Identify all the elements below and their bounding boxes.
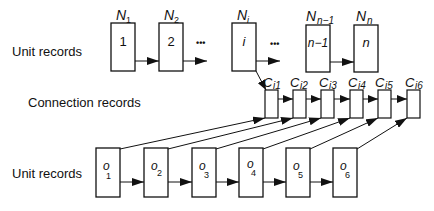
bottom-unit-o4: o 4 — [239, 148, 263, 197]
top-unit-ni: N i i — [232, 7, 256, 71]
svg-text:N: N — [306, 8, 317, 24]
svg-text:i3: i3 — [329, 80, 337, 91]
svg-text:i4: i4 — [358, 80, 366, 91]
top-unit-nn: N n n — [354, 8, 378, 72]
svg-text:i1: i1 — [273, 80, 281, 91]
svg-text:C: C — [375, 75, 385, 90]
svg-text:i2: i2 — [300, 80, 308, 91]
connection-ci1: C i1 — [263, 75, 281, 118]
connection-ci5: C i5 — [375, 75, 393, 118]
svg-text:5: 5 — [298, 170, 303, 180]
connection-ci2: C i2 — [290, 75, 308, 118]
svg-text:C: C — [290, 75, 300, 90]
svg-text:2: 2 — [157, 168, 162, 178]
arrow-o6-ci6 — [357, 118, 407, 149]
connection-ci4: C i4 — [348, 75, 366, 118]
bottom-unit-o1: o 1 — [96, 148, 120, 197]
top-unit-n1: N 1 1 — [111, 7, 135, 71]
svg-text:C: C — [263, 75, 273, 90]
svg-text:i6: i6 — [415, 80, 423, 91]
bottom-unit-o5: o 5 — [286, 148, 310, 197]
svg-text:i5: i5 — [385, 80, 393, 91]
svg-text:2: 2 — [167, 34, 174, 49]
row-label-top-unit-records: Unit records — [12, 44, 83, 59]
top-unit-n2: N 2 2 — [159, 7, 183, 71]
bottom-unit-o6: o 6 — [333, 148, 357, 197]
svg-text:N: N — [356, 8, 367, 24]
svg-text:3: 3 — [204, 170, 209, 180]
svg-text:1: 1 — [106, 171, 111, 181]
arrow-o1-ci1 — [120, 118, 265, 149]
ellipsis-2: ••• — [270, 39, 279, 49]
arrow-o5-ci5 — [310, 118, 378, 149]
row-label-connection-records: Connection records — [28, 95, 141, 110]
svg-text:n−1: n−1 — [308, 36, 328, 50]
bottom-unit-o2: o 2 — [144, 148, 168, 197]
bottom-unit-o3: o 3 — [192, 148, 216, 197]
connection-ci3: C i3 — [319, 75, 337, 118]
connection-ci6: C i6 — [405, 75, 423, 118]
top-unit-n-minus-1: N n−1 n−1 — [306, 8, 334, 72]
svg-text:1: 1 — [119, 34, 126, 49]
linked-records-diagram: Unit records Connection records Unit rec… — [0, 0, 434, 211]
svg-text:C: C — [405, 75, 415, 90]
svg-text:C: C — [348, 75, 358, 90]
ellipsis-1: ••• — [196, 38, 205, 48]
svg-text:n: n — [362, 35, 369, 50]
svg-text:C: C — [319, 75, 329, 90]
row-label-bottom-unit-records: Unit records — [12, 166, 83, 181]
svg-text:4: 4 — [251, 168, 256, 178]
svg-text:6: 6 — [345, 170, 350, 180]
